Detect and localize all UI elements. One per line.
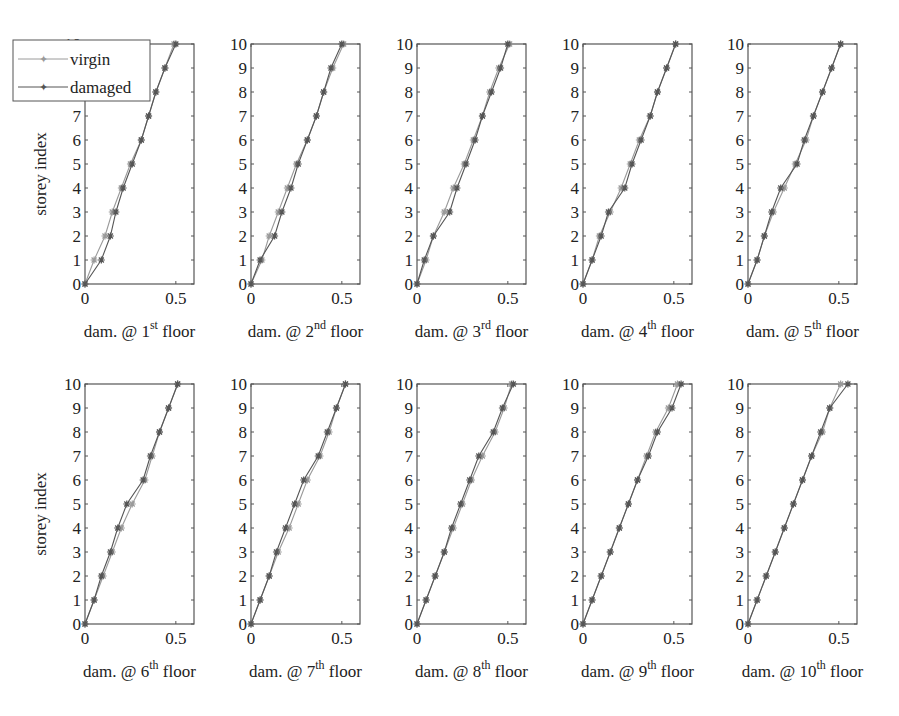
y-tick-label: 1 [239,251,248,270]
y-tick-label: 9 [571,59,580,78]
series-damaged-marker-icon [300,477,307,484]
x-tick-label: 0.5 [165,289,186,308]
series-damaged-marker-icon [499,405,506,412]
plot-frame [417,384,526,624]
series-damaged-marker-icon [174,381,181,388]
series-damaged-marker-icon [466,477,473,484]
x-tick-label: 0.5 [828,629,849,648]
x-tick-label: 0.5 [165,629,186,648]
y-tick-label: 3 [405,543,414,562]
y-tick-label: 5 [736,155,745,174]
y-tick-label: 3 [736,203,745,222]
series-damaged-marker-icon [441,549,448,556]
series-damaged-marker-icon [338,41,345,48]
series-damaged-marker-icon [768,209,775,216]
y-tick-label: 6 [736,471,745,490]
series-damaged-marker-icon [324,429,331,436]
y-tick-label: 4 [405,519,414,538]
y-tick-label: 8 [405,423,414,442]
x-tick-label: 0 [744,629,753,648]
series-damaged-marker-icon [634,477,641,484]
y-tick-label: 6 [239,471,248,490]
legend-damaged-label: damaged [70,78,132,97]
series-damaged-marker-icon [472,137,479,144]
y-tick-label: 5 [405,495,414,514]
y-tick-label: 8 [239,83,248,102]
series-damaged-marker-icon [320,89,327,96]
series-damaged-marker-icon [678,381,685,388]
subplot-8: 01234567891000.5dam. @ 8th floor [396,375,528,681]
subplot-6: 01234567891000.5dam. @ 6th floorstorey i… [31,375,196,681]
series-damaged-marker-icon [672,41,679,48]
series-damaged-marker-icon [112,209,119,216]
y-tick-label: 6 [73,471,82,490]
series-damaged-marker-icon [616,525,623,532]
x-axis-label: dam. @ 3rd floor [415,318,529,341]
y-tick-label: 10 [562,375,579,394]
series-damaged-marker-icon [282,525,289,532]
series-damaged-marker-icon [745,281,752,288]
plot-frame [251,384,360,624]
y-tick-label: 4 [405,179,414,198]
series-damaged-marker-icon [140,477,147,484]
y-tick-label: 3 [571,203,580,222]
y-tick-label: 0 [73,275,82,294]
y-tick-label: 0 [405,615,414,634]
series-damaged-marker-icon [414,281,421,288]
y-tick-label: 3 [571,543,580,562]
series-damaged-marker-icon [629,161,636,168]
y-tick-label: 10 [727,375,744,394]
series-damaged-marker-icon [794,161,801,168]
y-tick-label: 1 [736,591,745,610]
y-tick-label: 10 [396,35,413,54]
series-damaged-marker-icon [761,233,768,240]
y-tick-label: 5 [571,495,580,514]
x-axis-label: dam. @ 10th floor [742,658,864,681]
series-damaged-marker-icon [457,501,464,508]
y-tick-label: 0 [736,275,745,294]
series-damaged-marker-icon [504,41,511,48]
series-damaged-marker-icon [152,89,159,96]
plot-frame [583,44,692,284]
series-damaged-marker-icon [625,501,632,508]
y-tick-label: 2 [571,567,580,586]
y-tick-label: 0 [239,615,248,634]
series-damaged-marker-icon [638,137,645,144]
series-damaged-marker-icon [82,281,89,288]
figure-canvas: 01234567891000.5dam. @ 1st floorstorey i… [0,0,899,716]
y-tick-label: 4 [73,179,82,198]
x-tick-label: 0 [81,629,90,648]
series-damaged-marker-icon [663,65,670,72]
y-tick-label: 5 [239,495,248,514]
y-tick-label: 5 [73,155,82,174]
y-tick-label: 6 [405,471,414,490]
y-tick-label: 6 [73,131,82,150]
y-tick-label: 2 [73,567,82,586]
x-tick-label: 0 [81,289,90,308]
x-tick-label: 0.5 [331,629,352,648]
series-damaged-marker-icon [432,573,439,580]
series-damaged-marker-icon [844,381,851,388]
x-axis-label: dam. @ 6th floor [83,658,196,681]
series-damaged-marker-icon [819,89,826,96]
subplot-7: 01234567891000.5dam. @ 7th floor [230,375,362,681]
series-damaged-marker-icon [156,429,163,436]
y-tick-label: 4 [571,179,580,198]
y-tick-label: 4 [571,519,580,538]
y-tick-label: 9 [405,399,414,418]
series-damaged-marker-icon [98,257,105,264]
y-tick-label: 2 [73,227,82,246]
y-tick-label: 0 [736,615,745,634]
y-tick-label: 4 [736,179,745,198]
y-tick-label: 7 [239,447,248,466]
x-axis-label: dam. @ 8th floor [415,658,528,681]
y-tick-label: 1 [239,591,248,610]
x-tick-label: 0 [579,289,588,308]
plot-frame [748,384,857,624]
y-tick-label: 6 [405,131,414,150]
y-tick-label: 8 [73,423,82,442]
y-tick-label: 9 [239,59,248,78]
y-tick-label: 2 [405,227,414,246]
x-tick-label: 0 [413,289,422,308]
y-tick-label: 2 [239,227,248,246]
